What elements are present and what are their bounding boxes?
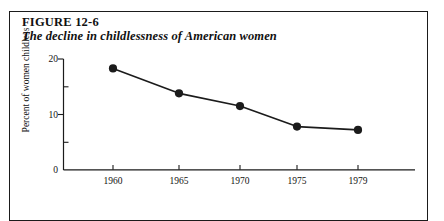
- data-point-1979: [354, 126, 362, 134]
- data-point-1970: [236, 102, 244, 110]
- data-series-markers: [109, 64, 362, 134]
- data-point-1965: [175, 89, 183, 97]
- data-point-1960: [109, 64, 117, 72]
- figure-root: FIGURE 12-6 The decline in childlessness…: [0, 0, 444, 206]
- chart-plot-area: Percent of women childless 20 10 0 1960 …: [0, 0, 444, 206]
- chart-svg: [0, 0, 444, 206]
- data-point-1975: [293, 122, 301, 130]
- data-series-line: [113, 68, 358, 129]
